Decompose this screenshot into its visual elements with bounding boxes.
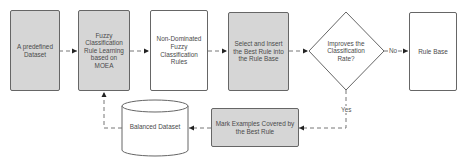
- rule-base-label: Rule Base: [418, 48, 448, 56]
- select-insert-best-rule-node: Select and Insert the Best Rule into the…: [228, 12, 289, 91]
- fuzzy-rule-learning-label: Fuzzy Classification Rule Learning based…: [81, 32, 127, 70]
- improves-decision-label: Improves the Classification Rate?: [322, 40, 370, 63]
- balanced-dataset-label: Balanced Dataset: [130, 123, 180, 131]
- predefined-dataset-label: A predefined Dataset: [13, 43, 57, 58]
- non-dominated-rules-node: Non-Dominated Fuzzy Classification Rules: [150, 10, 208, 91]
- select-insert-best-rule-label: Select and Insert the Best Rule into the…: [231, 40, 286, 63]
- edge-label-yes: Yes: [341, 106, 351, 113]
- mark-examples-label: Mark Examples Covered by the Best Rule: [214, 120, 296, 135]
- non-dominated-rules-label: Non-Dominated Fuzzy Classification Rules: [153, 35, 205, 65]
- improves-decision-node: Improves the Classification Rate?: [322, 36, 370, 66]
- edge-label-no: No: [389, 47, 397, 54]
- fuzzy-rule-learning-node: Fuzzy Classification Rule Learning based…: [78, 10, 130, 91]
- predefined-dataset-node: A predefined Dataset: [10, 10, 60, 91]
- arrow-decision-to-mark: [299, 90, 346, 128]
- rule-base-node: Rule Base: [409, 12, 457, 91]
- balanced-dataset-node: Balanced Dataset: [125, 112, 185, 142]
- arrow-balanced-to-learning: [104, 92, 122, 128]
- mark-examples-node: Mark Examples Covered by the Best Rule: [211, 108, 299, 147]
